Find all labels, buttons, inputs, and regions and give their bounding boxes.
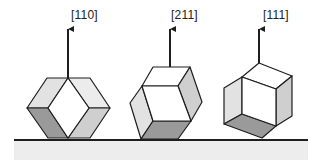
direction-label-111: [111] [263, 9, 289, 21]
crystal-211 [130, 67, 202, 139]
crystal-111 [224, 63, 292, 138]
crystal-diagram [0, 0, 320, 160]
direction-label-211: [211] [171, 9, 198, 21]
direction-label-110: [110] [71, 9, 98, 21]
crystal-110 [27, 78, 110, 138]
